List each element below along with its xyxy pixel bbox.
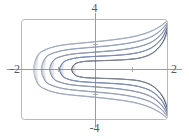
contour-plot-canvas: [0, 0, 189, 139]
axis-label-left: -2: [2, 63, 20, 75]
axis-label-top: 4: [0, 2, 189, 14]
axis-label-right: 2: [171, 63, 187, 75]
axis-label-bottom: -4: [0, 122, 189, 134]
contour-plot-figure: 4 -4 -2 2: [0, 0, 189, 139]
